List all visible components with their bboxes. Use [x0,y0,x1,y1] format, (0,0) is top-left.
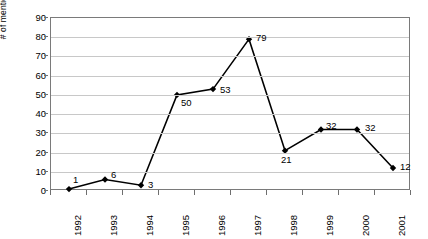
y-tick-mark [44,171,48,172]
x-tick-mark [194,190,195,195]
y-tick-mark [44,75,48,76]
gridline [51,114,409,115]
data-point-label: 21 [281,155,292,165]
y-tick-label: 30 [2,127,46,138]
x-tick-label: 1993 [108,215,119,236]
y-tick-label: 50 [2,88,46,99]
x-tick-mark [410,190,411,195]
x-tick-mark [374,190,375,195]
x-axis-labels: 1992199319941995199619971998199920002001 [50,198,410,239]
x-tick-label: 1995 [180,215,191,236]
x-tick-mark [86,190,87,195]
x-tick-mark [158,190,159,195]
data-point-label: 79 [256,33,267,43]
x-tick-label: 1999 [324,215,335,236]
x-tick-label: 1994 [144,215,155,236]
gridline [51,56,409,57]
gridline [51,95,409,96]
gridline [51,133,409,134]
x-axis-ticks [50,190,410,198]
y-tick-mark [44,55,48,56]
y-tick-label: 70 [2,50,46,61]
y-tick-mark [44,132,48,133]
x-tick-label: 1998 [288,215,299,236]
data-point-label: 32 [365,123,376,133]
x-tick-mark [122,190,123,195]
y-tick-mark [44,113,48,114]
y-tick-label: 90 [2,12,46,23]
y-tick-mark [44,94,48,95]
data-point-label: 6 [111,170,116,180]
y-tick-label: 40 [2,108,46,119]
gridline [51,37,409,38]
x-tick-label: 2001 [396,215,407,236]
plot-area: 16350537921323212 [50,17,410,190]
series-line [51,18,411,191]
x-tick-mark [302,190,303,195]
y-tick-label: 80 [2,31,46,42]
data-point-marker [138,182,144,188]
gridline [51,76,409,77]
x-tick-mark [50,190,51,195]
data-point-label: 50 [181,98,192,108]
y-tick-label: 20 [2,146,46,157]
y-tick-label: 0 [2,185,46,196]
y-tick-label: 60 [2,69,46,80]
data-point-marker [102,176,108,182]
data-point-label: 32 [326,121,337,131]
x-tick-label: 1992 [72,215,83,236]
x-tick-mark [230,190,231,195]
y-axis-ticks: 0102030405060708090 [0,17,46,190]
data-point-label: 1 [73,175,78,185]
y-tick-mark [44,190,48,191]
y-tick-label: 10 [2,165,46,176]
x-tick-mark [338,190,339,195]
data-point-label: 3 [148,180,153,190]
y-tick-mark [44,17,48,18]
data-point-label: 12 [400,162,411,172]
x-tick-mark [266,190,267,195]
x-tick-label: 1997 [252,215,263,236]
x-tick-label: 1996 [216,215,227,236]
y-tick-mark [44,152,48,153]
x-tick-label: 2000 [360,215,371,236]
y-tick-mark [44,36,48,37]
gridline [51,172,409,173]
line-chart: # of mentions 0102030405060708090 163505… [0,0,428,239]
data-point-label: 53 [220,85,231,95]
gridline [51,153,409,154]
